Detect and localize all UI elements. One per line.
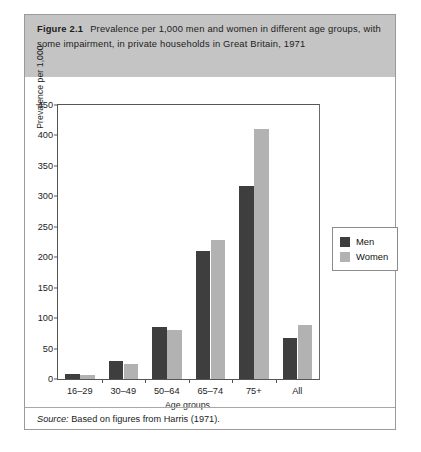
y-tick-mark (54, 318, 58, 319)
x-tick-mark (232, 379, 233, 383)
bar-men-5064 (152, 327, 167, 379)
bar-women-75+ (254, 129, 269, 379)
y-tick-label: 50 (43, 344, 53, 354)
x-tick-label: 75+ (246, 386, 262, 396)
bar-men-75+ (239, 186, 254, 379)
y-tick-label: 300 (38, 191, 53, 201)
chart-region: Prevalence per 1,000 0501001502002503003… (25, 77, 395, 407)
source-label: Source: (37, 414, 69, 424)
legend-item-women: Women (340, 249, 388, 264)
y-tick-mark (54, 348, 58, 349)
x-tick-mark (145, 379, 146, 383)
figure-caption: Figure 2.1Prevalence per 1,000 men and w… (37, 22, 381, 51)
y-tick-mark (54, 135, 58, 136)
bar-women-6574 (211, 240, 226, 379)
plot-area: Prevalence per 1,000 0501001502002503003… (57, 104, 320, 380)
y-axis-title: Prevalence per 1,000 (35, 7, 45, 167)
figure-caption-band: Figure 2.1Prevalence per 1,000 men and w… (25, 15, 395, 77)
x-tick-mark (276, 379, 277, 383)
source-text: Based on figures from Harris (1971). (71, 414, 220, 424)
y-tick-label: 100 (38, 313, 53, 323)
x-tick-label: 50–64 (154, 386, 180, 396)
bar-men-6574 (196, 251, 211, 379)
bar-men-1629 (65, 374, 80, 379)
legend-swatch-men-icon (340, 237, 350, 247)
y-tick-label: 200 (38, 252, 53, 262)
x-tick-mark (102, 379, 103, 383)
x-tick-label: 16–29 (67, 386, 93, 396)
y-tick-mark (54, 196, 58, 197)
chart-legend: Men Women (332, 227, 398, 271)
y-tick-label: 250 (38, 222, 53, 232)
y-tick-mark (54, 257, 58, 258)
y-tick-mark (54, 105, 58, 106)
y-tick-label: 350 (38, 161, 53, 171)
y-tick-label: 0 (48, 374, 53, 384)
x-tick-label: 65–74 (197, 386, 223, 396)
legend-item-men: Men (340, 234, 388, 249)
source-note: Source: Based on figures from Harris (19… (37, 414, 220, 424)
figure-box: Figure 2.1Prevalence per 1,000 men and w… (24, 14, 396, 430)
source-divider (25, 407, 395, 408)
legend-swatch-women-icon (340, 252, 350, 262)
x-tick-label: 30–49 (110, 386, 136, 396)
y-tick-label: 450 (38, 100, 53, 110)
bar-women-3049 (124, 364, 139, 379)
bar-women-5064 (167, 330, 182, 379)
bar-men-All (283, 338, 298, 379)
legend-label-women: Women (356, 251, 388, 262)
bar-men-3049 (109, 361, 124, 379)
y-tick-mark (54, 379, 58, 380)
x-tick-label: All (292, 386, 302, 396)
bar-women-1629 (80, 375, 95, 379)
x-tick-mark (189, 379, 190, 383)
y-tick-label: 150 (38, 283, 53, 293)
y-tick-mark (54, 287, 58, 288)
y-tick-mark (54, 226, 58, 227)
legend-label-men: Men (356, 236, 374, 247)
y-tick-mark (54, 165, 58, 166)
y-tick-label: 400 (38, 130, 53, 140)
figure-caption-text: Prevalence per 1,000 men and women in di… (37, 23, 381, 49)
bar-women-All (298, 325, 313, 379)
x-axis-title: Age groups (57, 400, 318, 410)
